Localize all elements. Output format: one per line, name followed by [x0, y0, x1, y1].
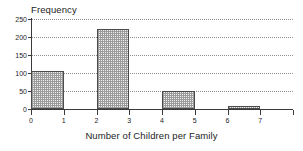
bar — [97, 29, 130, 109]
scan-artifact-text — [150, 0, 300, 5]
plot-area: 050100150200250 — [31, 19, 293, 109]
bar — [31, 71, 64, 109]
bar — [162, 91, 195, 109]
y-tick-label: 150 — [15, 52, 27, 59]
y-tick-label: 200 — [15, 34, 27, 41]
y-tick-label: 100 — [15, 70, 27, 77]
x-tick-mark — [228, 110, 229, 115]
x-tick-label: 1 — [62, 117, 66, 124]
y-tick-mark — [28, 37, 32, 38]
x-tick-mark — [195, 110, 196, 115]
x-tick-label: 4 — [160, 117, 164, 124]
y-tick-label: 250 — [15, 16, 27, 23]
y-tick-mark — [28, 19, 32, 20]
x-tick-mark-terminal — [293, 110, 294, 115]
x-tick-mark — [97, 110, 98, 115]
x-tick-mark — [31, 110, 32, 115]
x-tick-label: 6 — [226, 117, 230, 124]
x-tick-label: 3 — [127, 117, 131, 124]
y-tick-label: 0 — [23, 106, 27, 113]
gridline — [31, 37, 293, 38]
x-tick-label: 7 — [258, 117, 262, 124]
x-tick-mark — [162, 110, 163, 115]
x-tick-label: 5 — [193, 117, 197, 124]
x-tick-mark — [129, 110, 130, 115]
gridline — [31, 73, 293, 74]
y-tick-mark — [28, 55, 32, 56]
gridline — [31, 55, 293, 56]
y-tick-label: 50 — [19, 88, 27, 95]
gridline — [31, 19, 293, 20]
y-axis-title: Frequency — [31, 4, 77, 15]
x-tick-mark — [64, 110, 65, 115]
x-axis-title: Number of Children per Family — [0, 130, 303, 141]
x-axis-line: 01234567 — [31, 109, 293, 110]
x-tick-label: 0 — [29, 117, 33, 124]
x-tick-mark — [260, 110, 261, 115]
frequency-histogram: Frequency 050100150200250 01234567 Numbe… — [0, 0, 303, 151]
x-tick-label: 2 — [95, 117, 99, 124]
